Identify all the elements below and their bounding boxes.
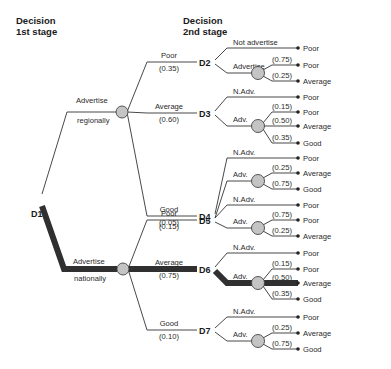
chance-node	[116, 106, 128, 118]
outcome-probability: (0.35)	[272, 289, 292, 298]
outcome-probability: (0.25)	[272, 163, 292, 172]
state-label: Poor	[161, 51, 178, 60]
state-branch-line	[127, 112, 197, 113]
advertise-label: Adv.	[233, 272, 248, 281]
outcome-label: Poor	[303, 265, 320, 274]
chance-node	[252, 120, 265, 133]
outcome-label: Good	[303, 295, 322, 304]
advertise-label: Adv.	[233, 170, 248, 179]
outcome-dot	[296, 46, 300, 50]
outcome-dot	[296, 281, 300, 285]
outcome-probability: (0.15)	[272, 102, 292, 111]
probability-label: (0.15)	[159, 222, 179, 231]
outcome-label: Good	[303, 139, 322, 148]
outcome-probability: (0.75)	[272, 339, 292, 348]
outcome-probability: (0.50)	[272, 116, 292, 125]
state-label: Average	[155, 102, 183, 111]
outcome-dot	[296, 95, 300, 99]
option-label: Advertise	[73, 257, 105, 266]
outcome-label: Poor	[303, 249, 320, 258]
state-label: Good	[160, 319, 179, 328]
outcome-dot	[296, 124, 300, 128]
outcome-label: Good	[303, 185, 322, 194]
probability-label: (0.35)	[159, 64, 179, 73]
chance-node	[252, 175, 265, 188]
no-advertise-label: N.Adv.	[233, 243, 255, 252]
option-label: nationally	[74, 274, 106, 283]
outcome-probability: (0.75)	[272, 55, 292, 64]
decision-node-d7: D7	[199, 326, 211, 336]
outcome-label: Good	[303, 345, 322, 354]
state-label: Average	[155, 258, 183, 267]
decision-node-d3: D3	[199, 109, 211, 119]
decision-node-d5: D5	[199, 216, 211, 226]
outcome-dot	[296, 251, 300, 255]
outcome-label: Average	[303, 77, 331, 86]
no-advertise-label: N.Adv.	[233, 307, 255, 316]
outcome-label: Poor	[303, 313, 320, 322]
outcome-probability: (0.75)	[272, 179, 292, 188]
outcome-label: Poor	[303, 154, 320, 163]
outcome-label: Average	[303, 169, 331, 178]
probability-label: (0.60)	[159, 115, 179, 124]
no-advertise-label: N.Adv.	[233, 148, 255, 157]
outcome-dot	[296, 315, 300, 319]
chance-node	[252, 222, 265, 235]
outcome-dot	[296, 187, 300, 191]
outcome-label: Poor	[303, 201, 320, 210]
outcome-label: Poor	[303, 108, 320, 117]
outcome-probability: (0.25)	[272, 71, 292, 80]
no-advertise-label: Not advertise	[233, 38, 278, 47]
probability-label: (0.10)	[159, 332, 179, 341]
chance-node	[252, 67, 265, 80]
outcome-dot	[296, 331, 300, 335]
advertise-label: Adv.	[233, 330, 248, 339]
outcome-dot	[296, 267, 300, 271]
outcome-probability: (0.25)	[272, 323, 292, 332]
header-stage1-line1: Decision	[16, 15, 56, 26]
decision-tree: Decision1st stageDecision2nd stageD1Adve…	[0, 0, 391, 369]
outcome-probability: (0.75)	[272, 210, 292, 219]
outcome-dot	[296, 110, 300, 114]
probability-label: (0.75)	[159, 271, 179, 280]
outcome-probability: (0.35)	[272, 133, 292, 142]
outcome-probability: (0.25)	[272, 226, 292, 235]
outcome-dot	[296, 63, 300, 67]
outcome-label: Average	[303, 279, 331, 288]
no-advertise-label: N.Adv.	[233, 87, 255, 96]
outcome-label: Poor	[303, 44, 320, 53]
outcome-label: Poor	[303, 216, 320, 225]
outcome-branch-line	[263, 333, 298, 338]
advertise-label: Adv.	[233, 217, 248, 226]
outcome-label: Average	[303, 329, 331, 338]
decision-node-d2: D2	[199, 58, 211, 68]
outcome-probability: (0.50)	[272, 273, 292, 282]
outcome-label: Poor	[303, 93, 320, 102]
header-stage2-line2: 2nd stage	[183, 26, 227, 37]
outcome-dot	[296, 156, 300, 160]
outcome-label: Poor	[303, 61, 320, 70]
outcome-dot	[296, 79, 300, 83]
outcome-branch-line	[263, 65, 298, 70]
option-label: Advertise	[76, 96, 108, 105]
outcome-branch-line	[263, 220, 298, 225]
state-label: Poor	[161, 209, 178, 218]
outcome-dot	[296, 141, 300, 145]
outcome-branch-line	[263, 173, 298, 178]
first-stage-option-0	[42, 62, 197, 216]
chance-node	[252, 277, 265, 290]
outcome-dot	[296, 203, 300, 207]
outcome-dot	[296, 218, 300, 222]
chance-node	[252, 335, 265, 348]
no-advertise-label: N.Adv.	[233, 195, 255, 204]
header-stage1-line2: 1st stage	[16, 26, 57, 37]
outcome-label: Average	[303, 232, 331, 241]
option-label: regionally	[77, 116, 110, 125]
decision-node-d6: D6	[199, 265, 211, 275]
state-branch-line	[127, 112, 197, 216]
chance-node	[117, 263, 129, 275]
outcome-dot	[296, 171, 300, 175]
outcome-label: Average	[303, 122, 331, 131]
outcome-dot	[296, 347, 300, 351]
outcome-dot	[296, 297, 300, 301]
